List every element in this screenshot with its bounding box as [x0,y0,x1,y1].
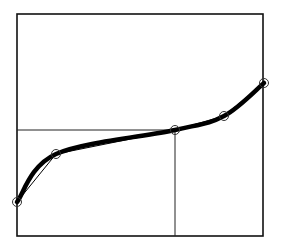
diagram [0,0,281,248]
data-point-markers [13,79,269,207]
plot-frame [17,14,263,236]
polyline-connector [17,83,264,202]
smooth-curve [17,83,264,202]
